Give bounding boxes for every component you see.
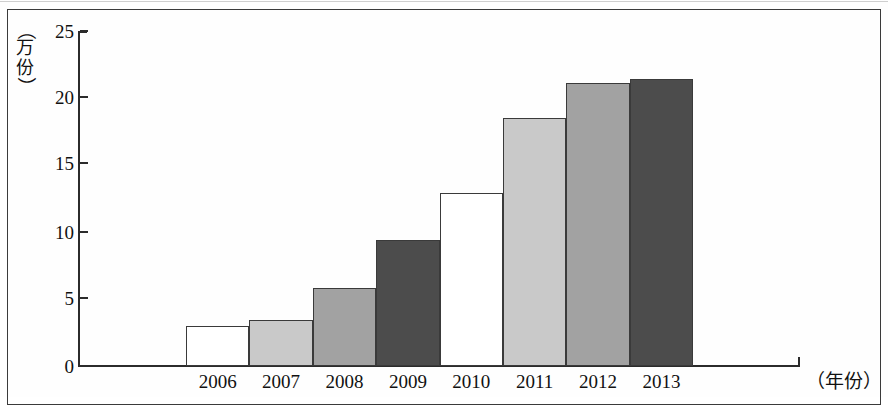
bar-2006 — [186, 326, 249, 366]
bar-2009 — [376, 240, 439, 366]
bar-2010 — [440, 193, 503, 366]
bar-2012 — [566, 83, 629, 366]
x-tick-label-2011: 2011 — [503, 371, 566, 393]
bar-2008 — [313, 288, 376, 366]
bar-2007 — [249, 320, 312, 366]
x-tick-label-2012: 2012 — [566, 371, 629, 393]
x-tick-label-2007: 2007 — [249, 371, 312, 393]
x-tick-label-2013: 2013 — [630, 371, 693, 393]
x-tick-label-2009: 2009 — [376, 371, 439, 393]
x-tick-label-2006: 2006 — [186, 371, 249, 393]
x-tick-label-2008: 2008 — [313, 371, 376, 393]
bar-2013 — [630, 79, 693, 366]
x-axis-caption: （年份） — [806, 371, 882, 393]
bar-2011 — [503, 118, 566, 366]
x-tick-label-2010: 2010 — [440, 371, 503, 393]
